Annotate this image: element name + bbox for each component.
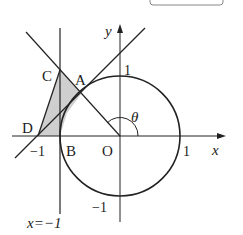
origin-label: O: [102, 143, 113, 159]
point-A-label: A: [75, 72, 86, 88]
tick-y-neg: −1: [92, 200, 107, 215]
point-D-label: D: [22, 120, 33, 136]
point-B-label: B: [66, 143, 76, 159]
tick-x-pos: 1: [183, 144, 190, 159]
point-C-label: C: [42, 68, 52, 84]
tick-x-neg: −1: [30, 144, 45, 159]
y-axis-label: y: [103, 23, 112, 39]
x-axis-arrow: [217, 133, 226, 139]
angle-theta-label: θ: [131, 109, 139, 125]
answer-box: [150, 0, 223, 5]
line-OC: [26, 32, 120, 136]
y-axis-arrow: [117, 24, 123, 33]
vertical-line-label: x=−1: [26, 215, 61, 231]
x-axis-label: x: [211, 142, 219, 158]
tick-y-pos: 1: [124, 63, 131, 78]
geometry-figure: y x O 1 1 −1 −1 A B C D θ x=−1: [0, 0, 243, 235]
tangent-line-DA: [15, 28, 145, 158]
